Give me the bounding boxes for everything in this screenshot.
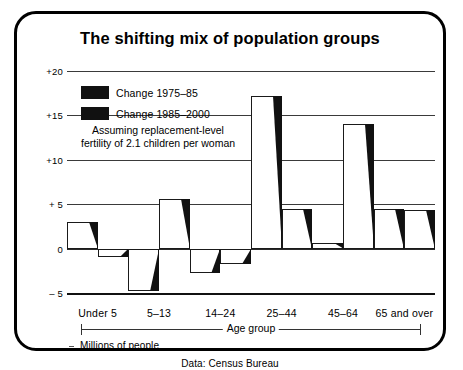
legend-note: Assuming replacement-level fertility of … <box>81 124 296 149</box>
bar-group <box>312 71 373 293</box>
x-axis-label-3: 25–44 <box>267 307 297 319</box>
units-text: Millions of people <box>80 340 159 351</box>
y-axis-tick-label: +15 <box>46 110 63 121</box>
bar-shadow-wedge <box>150 249 159 292</box>
bar-shadow-wedge <box>395 209 404 249</box>
legend-item-1: Change 1975–85 <box>81 84 311 101</box>
units-dash-icon <box>69 346 74 347</box>
bar-shadow-wedge <box>365 124 374 248</box>
legend-swatch-icon <box>81 86 109 99</box>
bar-shadow-wedge <box>334 243 343 248</box>
bar-group <box>374 71 435 293</box>
chart-legend: Change 1975–85 Change 1985–2000 <box>81 84 311 126</box>
x-axis-group-bracket: Age group <box>81 324 421 336</box>
bar-shadow-wedge <box>181 199 190 249</box>
bar-shadow-wedge <box>89 222 98 249</box>
bracket-tick-right <box>420 324 421 335</box>
y-axis-tick-label: +20 <box>46 66 63 77</box>
y-axis-units-label: Millions of people <box>80 340 159 351</box>
bar-shadow-wedge <box>303 209 312 249</box>
x-axis-label-1: 5–13 <box>147 307 171 319</box>
x-axis-labels: Under 55–1314–2425–4445–6465 and over <box>67 307 435 321</box>
y-axis-tick-label: +10 <box>46 154 63 165</box>
chart-source: Data: Census Bureau <box>17 358 443 369</box>
bar-shadow-wedge <box>119 249 128 258</box>
bar-shadow-wedge <box>242 249 251 264</box>
x-axis-title: Age group <box>223 322 279 334</box>
x-axis-label-2: 14–24 <box>205 307 235 319</box>
legend-swatch-icon <box>81 107 109 120</box>
y-axis-tick-label: – 5 <box>49 288 63 299</box>
legend-label-2: Change 1985–2000 <box>116 108 210 120</box>
legend-note-line-1: Assuming replacement-level <box>81 124 296 137</box>
gridline--5 <box>67 293 435 295</box>
chart-title: The shifting mix of population groups <box>17 29 443 48</box>
x-axis-label-4: 45–64 <box>328 307 358 319</box>
chart-frame: The shifting mix of population groups – … <box>14 11 446 351</box>
legend-note-line-2: fertility of 2.1 children per woman <box>81 137 235 149</box>
x-axis-label-5: 65 and over <box>375 307 433 319</box>
bar-shadow-wedge <box>426 210 435 249</box>
bar-shadow-wedge <box>211 249 220 274</box>
y-axis-tick-label: 0 <box>58 243 63 254</box>
y-axis-tick-label: + 5 <box>49 199 63 210</box>
bracket-tick-left <box>81 324 82 335</box>
x-axis-label-0: Under 5 <box>78 307 117 319</box>
legend-label-1: Change 1975–85 <box>116 87 198 99</box>
legend-item-2: Change 1985–2000 <box>81 105 311 122</box>
